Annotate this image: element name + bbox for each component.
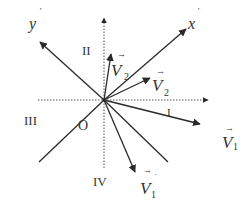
- v1-arrow: →: [225, 123, 234, 133]
- x-prime-label: x: [187, 15, 195, 32]
- v2-label: → V 2: [152, 66, 169, 98]
- v1-prime-arrow: →: [143, 165, 152, 175]
- vector-v1-prime: [104, 100, 135, 172]
- origin-point: [102, 98, 105, 101]
- quadrant-iv-label: IV: [93, 174, 107, 189]
- x-prime-mark: ': [198, 7, 200, 16]
- y-prime-label: y: [27, 15, 37, 33]
- v2-prime-symbol: V: [111, 61, 124, 80]
- v1-prime-subscript: 1: [151, 189, 156, 200]
- reference-line: [104, 100, 168, 162]
- y-prime-mark: ': [40, 7, 42, 16]
- v2-subscript: 2: [164, 87, 169, 98]
- y-prime-axis-line: [39, 100, 104, 162]
- v1-prime-mark: ': [155, 172, 156, 180]
- v2-prime-arrow: →: [117, 49, 126, 59]
- v2-arrow: →: [156, 66, 165, 76]
- vector-rotation-diagram: y ' x ' II I III IV O → V 2 → V 2 → V 1 …: [0, 0, 248, 209]
- quadrant-i-label: I: [167, 106, 171, 118]
- v1-prime-label: → ' V 1: [140, 165, 156, 200]
- y-prime-axis-upper: [40, 42, 104, 100]
- v2-prime-subscript: 2: [124, 71, 129, 82]
- origin-label: O: [78, 118, 88, 133]
- v2-prime-label: → V 2: [111, 49, 129, 82]
- v1-subscript: 1: [233, 141, 238, 152]
- quadrant-ii-label: II: [82, 43, 91, 58]
- vector-v1: [104, 100, 200, 124]
- v1-label: → V 1: [222, 123, 238, 152]
- y-prime-axis: [39, 42, 40, 161]
- quadrant-iii-label: III: [24, 113, 37, 128]
- vector-v2-prime: [104, 54, 111, 100]
